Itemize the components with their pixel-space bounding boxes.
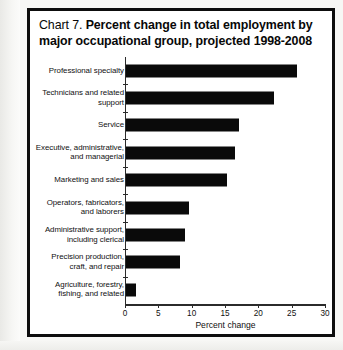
bar-track: [126, 229, 332, 242]
bar-row: Precision production, craft, and repair: [30, 249, 332, 276]
chart-title-number: Chart 7.: [39, 18, 82, 32]
bar-row: Service: [30, 112, 332, 139]
x-axis-tick-label: 30: [313, 309, 337, 318]
category-axis-tick: [123, 194, 128, 195]
bar-row: Marketing and sales: [30, 167, 332, 194]
scan-bottom-edge: [0, 341, 343, 350]
x-axis-tick: [158, 304, 159, 308]
category-axis-tick: [123, 139, 128, 140]
bar-track: [126, 146, 332, 159]
bar-track: [126, 283, 332, 296]
x-axis-tick-label: 20: [246, 309, 270, 318]
x-axis-tick: [292, 304, 293, 308]
x-axis-tick: [258, 304, 259, 308]
bar-track: [126, 256, 332, 269]
bar-row-label: Executive, administrative, and manageria…: [0, 143, 124, 162]
x-axis-tick-label: 25: [280, 309, 304, 318]
bar[interactable]: [126, 92, 274, 105]
bar[interactable]: [126, 256, 180, 269]
bar-row: Operators, fabricators, and laborers: [30, 194, 332, 221]
plot-area: Professional specialtyTechnicians and re…: [30, 55, 332, 333]
x-axis-tick: [225, 304, 226, 308]
bar-track: [126, 201, 332, 214]
category-axis-tick: [123, 112, 128, 113]
x-axis-tick-label: 5: [146, 309, 170, 318]
category-axis-tick: [123, 249, 128, 250]
x-axis-title: Percent change: [125, 320, 326, 330]
bar-row: Administrative support, including cleric…: [30, 221, 332, 248]
bar-row-label: Operators, fabricators, and laborers: [0, 198, 124, 217]
bar-row-label: Administrative support, including cleric…: [0, 225, 124, 244]
x-axis-tick-label: 10: [180, 309, 204, 318]
bar-row-label: Service: [0, 121, 124, 131]
page-canvas: Chart 7. Percent change in total employm…: [0, 0, 343, 350]
bar-row: Executive, administrative, and manageria…: [30, 139, 332, 166]
bar[interactable]: [126, 201, 189, 214]
category-axis-tick: [123, 222, 128, 223]
x-axis-tick-label: 15: [213, 309, 237, 318]
x-axis-tick: [192, 304, 193, 308]
chart-title: Chart 7. Percent change in total employm…: [39, 17, 327, 49]
category-axis-tick: [123, 277, 128, 278]
chart-title-line2: major occupational group, projected 1998…: [39, 34, 312, 48]
chart-title-line1: Percent change in total employment by: [86, 18, 313, 32]
bar-row-label: Marketing and sales: [0, 175, 124, 185]
chart-inner: Chart 7. Percent change in total employm…: [30, 11, 332, 334]
bar-row-label: Precision production, craft, and repair: [0, 253, 124, 272]
bar-track: [126, 64, 332, 77]
chart-frame: Chart 7. Percent change in total employm…: [27, 8, 335, 337]
x-axis-tick-label: 0: [113, 309, 137, 318]
bar-row: Agriculture, forestry, fishing, and rela…: [30, 276, 332, 303]
bar[interactable]: [126, 119, 239, 132]
bar-rows: Professional specialtyTechnicians and re…: [30, 57, 332, 304]
bar-track: [126, 119, 332, 132]
bar-row: Professional specialty: [30, 57, 332, 84]
bar-track: [126, 92, 332, 105]
bar-row-label: Agriculture, forestry, fishing, and rela…: [0, 280, 124, 299]
category-axis-tick: [123, 167, 128, 168]
bar-row: Technicians and related support: [30, 84, 332, 111]
bar-track: [126, 174, 332, 187]
bar[interactable]: [126, 64, 297, 77]
bar-row-label: Technicians and related support: [0, 88, 124, 107]
x-axis-tick: [125, 304, 126, 308]
bar[interactable]: [126, 174, 227, 187]
bar-row-label: Professional specialty: [0, 66, 124, 76]
x-axis-tick: [325, 304, 326, 308]
bar[interactable]: [126, 146, 235, 159]
bar[interactable]: [126, 229, 185, 242]
category-axis-tick: [123, 84, 128, 85]
bar[interactable]: [126, 283, 136, 296]
